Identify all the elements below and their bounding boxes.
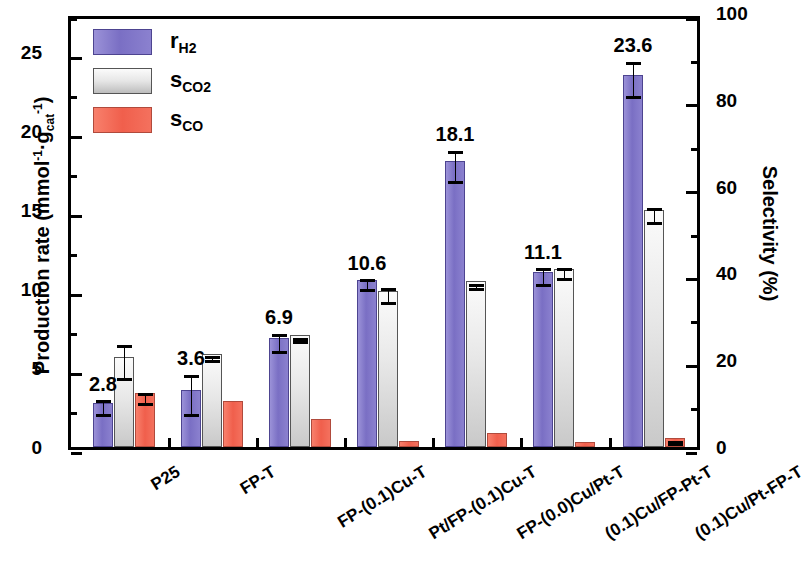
y-left-tick-label: 5 [31,358,42,380]
bar-sco[interactable] [399,441,419,447]
bar-sco[interactable] [223,401,243,447]
y-right-tick-label: 0 [716,437,727,459]
error-bar-cap [381,288,396,291]
error-bar-cap [448,151,463,154]
error-bar [279,335,280,352]
error-bar-cap [184,414,199,417]
bar-sco2[interactable] [466,281,486,447]
plot-frame: 2.83.66.910.618.111.123.6 rH2 sCO2 sCO [68,16,700,450]
bar-rh2[interactable] [357,280,377,447]
legend-swatch-rh2 [93,29,152,55]
error-bar-cap [557,278,572,281]
y-right-tick-label: 80 [716,90,737,112]
y-axis-left-title-sub: cat [43,114,57,131]
legend-label-rh2-text: r [170,28,179,53]
bar-rh2[interactable] [269,338,289,447]
error-bar-cap [557,268,572,271]
legend-label-rh2: rH2 [170,28,196,56]
y-left-tick-label: 0 [31,437,42,459]
y-right-minor-tick [691,148,697,151]
y-right-major-tick [686,365,697,368]
error-bar-cap [469,288,484,291]
y-left-minor-tick [71,96,77,99]
error-bar-cap [469,284,484,287]
error-bar-cap [184,375,199,378]
y-right-tick-label: 100 [716,3,748,25]
y-left-minor-tick [71,333,77,336]
bar-sco[interactable] [311,419,331,447]
legend-label-sco2: sCO2 [170,67,211,95]
bar-value-label: 18.1 [420,123,490,146]
bar-value-label: 11.1 [508,241,578,264]
y-axis-right-title: Selectivity (%) [758,34,781,434]
y-axis-left-title-close: ) [31,97,53,104]
error-bar-cap [448,181,463,184]
legend-label-sco-text: s [170,106,182,131]
error-bar-cap [96,400,111,403]
y-left-tick-label: 10 [21,279,42,301]
y-left-major-tick [71,452,82,455]
bar-sco[interactable] [575,442,595,447]
legend-label-sco-sub: CO [182,118,203,134]
error-bar-cap [647,222,662,225]
x-axis-category-label: FP-(0.1)Cu-T [334,462,430,533]
bar-sco2[interactable] [290,335,310,447]
y-left-tick-label: 15 [21,200,42,222]
legend-label-sco2-text: s [170,67,182,92]
y-right-minor-tick [691,61,697,64]
y-axis-left-title-main: Production rate (mmol [31,161,53,374]
bar-value-label: 23.6 [598,34,668,57]
bar-value-label: 2.8 [68,373,138,396]
bar-rh2[interactable] [445,161,465,447]
x-axis-group-tick [432,438,435,447]
y-axis-left-title-sup1: -1 [31,150,45,161]
bar-value-label: 10.6 [332,252,402,275]
bar-sco2[interactable] [378,291,398,447]
error-bar [455,152,456,182]
bar-value-label: 6.9 [244,306,314,329]
error-bar-cap [626,62,641,65]
y-right-minor-tick [691,321,697,324]
error-bar-cap [360,279,375,282]
x-axis-group-tick [168,438,171,447]
legend-label-rh2-sub: H2 [179,40,197,56]
y-right-major-tick [686,18,697,21]
error-bar-cap [138,403,153,406]
error-bar-cap [272,334,287,337]
x-axis-group-tick [256,438,259,447]
legend-swatch-sco2 [93,68,152,94]
y-right-major-tick [686,278,697,281]
y-left-major-tick [71,136,82,139]
bar-rh2[interactable] [623,75,643,447]
y-left-tick-label: 25 [21,42,42,64]
y-right-tick-label: 20 [716,350,737,372]
x-axis-group-tick [344,438,347,447]
bar-value-label: 3.6 [156,347,226,370]
error-bar [191,376,192,415]
x-axis-group-tick [609,438,612,447]
y-right-minor-tick [691,235,697,238]
legend-item-sco: sCO [93,103,273,137]
legend-item-rh2: rH2 [93,25,273,59]
y-right-major-tick [686,191,697,194]
bar-sco[interactable] [487,433,507,447]
error-bar-cap [647,208,662,211]
error-bar-cap [626,96,641,99]
bar-rh2[interactable] [533,272,553,447]
error-bar-cap [117,345,132,348]
y-left-major-tick [71,57,82,60]
y-left-minor-tick [71,412,77,415]
y-right-major-tick [686,452,697,455]
bar-sco2[interactable] [644,210,664,447]
legend-label-sco: sCO [170,106,203,134]
bar-sco2[interactable] [554,269,574,447]
legend-swatch-sco [93,107,152,133]
y-left-tick-label: 20 [21,121,42,143]
error-bar-cap [96,414,111,417]
x-axis-category-label: FP-T [237,462,280,499]
y-left-minor-tick [71,175,77,178]
error-bar-cap [138,393,153,396]
error-bar-cap [293,341,308,344]
legend: rH2 sCO2 sCO [93,25,273,142]
y-right-major-tick [686,104,697,107]
